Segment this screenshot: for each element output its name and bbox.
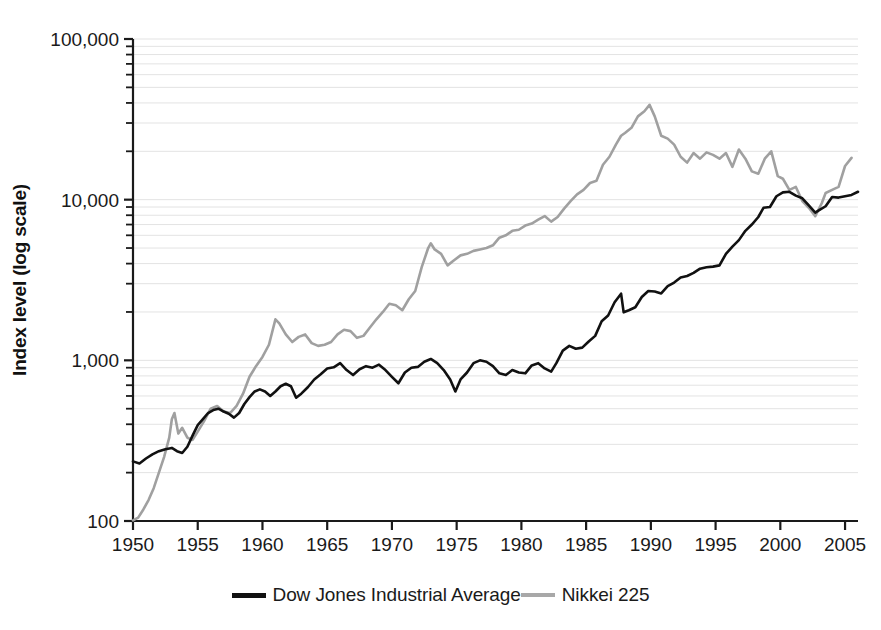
- x-tick-label: 1980: [500, 534, 542, 555]
- x-tick-label: 2005: [824, 534, 866, 555]
- gridlines-group: [133, 39, 858, 521]
- x-tick-label: 1960: [241, 534, 283, 555]
- y-tick-labels-group: 1001,00010,000100,000: [50, 29, 119, 532]
- x-tick-label: 1970: [371, 534, 413, 555]
- x-tick-label: 1965: [306, 534, 348, 555]
- chart-canvas: 1001,00010,000100,000 195019551960196519…: [0, 0, 881, 630]
- series-group: [133, 105, 858, 520]
- x-tick-label: 1990: [630, 534, 672, 555]
- legend-item-nikkei[interactable]: Nikkei 225: [521, 584, 650, 606]
- x-tick-label: 1950: [112, 534, 154, 555]
- legend-item-dow[interactable]: Dow Jones Industrial Average: [232, 584, 521, 606]
- legend-swatch-dow: [232, 593, 266, 598]
- x-tick-label: 2000: [759, 534, 801, 555]
- x-tick-labels-group: 1950195519601965197019751980198519901995…: [112, 534, 866, 555]
- x-tick-label: 1995: [694, 534, 736, 555]
- y-tick-label: 10,000: [61, 190, 119, 211]
- chart-legend: Dow Jones Industrial Average Nikkei 225: [0, 578, 881, 612]
- series-line-dow-jones: [133, 192, 858, 464]
- y-tick-label: 1,000: [71, 350, 119, 371]
- legend-label-dow: Dow Jones Industrial Average: [273, 584, 521, 606]
- legend-swatch-nikkei: [521, 593, 555, 597]
- y-tick-label: 100: [87, 511, 119, 532]
- y-axis-group: [124, 39, 133, 521]
- series-line-nikkei: [133, 105, 852, 520]
- legend-label-nikkei: Nikkei 225: [562, 584, 650, 606]
- x-tick-label: 1985: [565, 534, 607, 555]
- y-tick-label: 100,000: [50, 29, 119, 50]
- x-tick-label: 1955: [177, 534, 219, 555]
- x-axis-group: [133, 521, 858, 530]
- x-tick-label: 1975: [436, 534, 478, 555]
- stock-index-line-chart: Index level (log scale) 1001,00010,00010…: [0, 0, 881, 630]
